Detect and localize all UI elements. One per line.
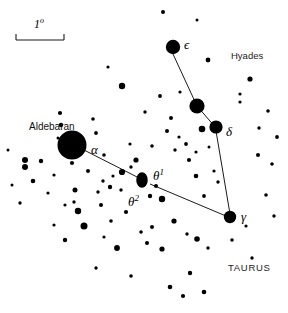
- field-star: [96, 190, 99, 193]
- field-star: [194, 174, 199, 179]
- field-star: [247, 76, 252, 81]
- field-star: [81, 223, 88, 230]
- field-star: [114, 245, 120, 251]
- constellation-line: [173, 54, 197, 106]
- field-star: [73, 188, 78, 193]
- field-star: [256, 153, 260, 157]
- field-star: [208, 146, 211, 149]
- field-star: [22, 164, 28, 170]
- field-star: [119, 188, 122, 191]
- field-star: [206, 246, 209, 249]
- field-star: [129, 274, 133, 278]
- field-star: [171, 218, 176, 223]
- label-text: Aldebaran: [29, 121, 75, 132]
- field-star: [11, 184, 14, 187]
- named-star: [166, 40, 180, 54]
- label-text: γ: [241, 209, 246, 224]
- field-star: [94, 131, 98, 135]
- field-star: [206, 58, 211, 63]
- field-star: [194, 236, 200, 242]
- field-star: [129, 165, 132, 168]
- star-label-epsilon: ϵ: [184, 38, 189, 51]
- field-star: [109, 219, 113, 223]
- field-star: [275, 135, 279, 139]
- field-star: [139, 230, 143, 234]
- field-star: [102, 153, 106, 157]
- field-star: [18, 201, 21, 204]
- field-star: [102, 235, 105, 238]
- field-star: [158, 94, 162, 98]
- field-star: [150, 225, 154, 229]
- field-star: [91, 117, 95, 121]
- field-star: [184, 142, 188, 146]
- named-star: [209, 120, 222, 133]
- star-label-taurus: TAURUS: [228, 263, 271, 273]
- field-star: [106, 65, 109, 68]
- named-star: [189, 98, 204, 113]
- field-star: [119, 83, 125, 89]
- field-star: [264, 193, 268, 197]
- field-star: [202, 194, 206, 198]
- field-star: [143, 110, 146, 113]
- field-star: [257, 126, 260, 129]
- label-text: α: [91, 142, 98, 157]
- field-star: [177, 135, 180, 138]
- field-star: [244, 224, 247, 227]
- field-star: [216, 180, 219, 183]
- field-star: [159, 196, 165, 202]
- field-star: [128, 142, 131, 145]
- field-star: [272, 214, 275, 217]
- field-star: [202, 290, 207, 295]
- named-star: [58, 131, 87, 160]
- star-label-delta: δ: [226, 125, 232, 138]
- field-star: [181, 294, 185, 298]
- field-star: [52, 173, 55, 176]
- star-label-alpha: α: [91, 143, 98, 156]
- label-text: Hyades: [231, 50, 263, 61]
- field-star: [52, 223, 55, 226]
- field-star: [238, 100, 241, 103]
- field-star: [238, 92, 241, 95]
- label-text: δ: [226, 124, 232, 139]
- field-star: [173, 148, 176, 151]
- label-text: ϵ: [184, 37, 189, 52]
- field-star: [169, 116, 173, 120]
- field-star: [194, 150, 197, 153]
- field-star: [187, 158, 191, 162]
- named-stars-group: [58, 40, 237, 223]
- star-chart: Aldebaranαϵδγθ1θ2HyadesTAURUS 1o: [0, 0, 288, 313]
- field-star: [63, 238, 67, 242]
- named-star-theta: [136, 172, 147, 188]
- label-superscript: 1: [159, 167, 164, 177]
- field-star: [58, 111, 62, 115]
- field-star: [148, 194, 152, 198]
- scale-unit: o: [40, 16, 44, 25]
- star-label-theta2: θ2: [128, 194, 139, 208]
- field-star: [124, 210, 128, 214]
- field-star: [111, 174, 114, 177]
- field-star: [159, 246, 164, 251]
- named-star: [224, 211, 236, 223]
- field-star: [270, 162, 274, 166]
- constellation-line: [216, 131, 230, 214]
- star-label-theta1: θ1: [153, 168, 164, 182]
- field-star: [46, 191, 49, 194]
- field-star: [168, 285, 173, 290]
- scale-bar-label: 1o: [34, 17, 44, 30]
- field-star: [250, 256, 253, 259]
- field-star: [178, 90, 181, 93]
- field-star: [7, 149, 10, 152]
- field-star: [199, 126, 206, 133]
- field-star: [212, 169, 215, 172]
- field-star: [196, 19, 199, 22]
- scale-bar-group: [16, 34, 64, 40]
- field-star: [185, 232, 188, 235]
- star-label-aldebaran: Aldebaran: [29, 122, 75, 132]
- field-star: [188, 271, 192, 275]
- field-star: [230, 238, 234, 242]
- field-star: [266, 109, 270, 113]
- field-star: [150, 144, 154, 148]
- field-star: [108, 185, 112, 189]
- label-text: TAURUS: [228, 262, 271, 273]
- field-star: [75, 208, 81, 214]
